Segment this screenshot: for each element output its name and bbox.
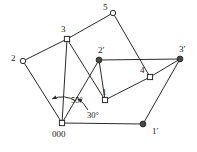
node-label-3: 3: [61, 25, 66, 34]
node-label-1: 1: [102, 88, 107, 97]
edge-n2p-n3p: [99, 59, 180, 60]
diagram-svg: [0, 0, 197, 152]
edge-n2-n3: [23, 39, 67, 61]
node-group: [20, 10, 183, 127]
edge-group: [23, 13, 180, 124]
node-n1: [102, 97, 107, 102]
edge-n4-n3p: [150, 59, 180, 77]
edge-n3-n5: [67, 13, 113, 39]
node-n3p: [177, 56, 183, 62]
edge-n3p-n1p: [143, 59, 180, 124]
node-label-4: 4: [140, 66, 145, 75]
node-n2p: [96, 57, 102, 63]
edge-n000-n1p: [62, 123, 143, 124]
node-label-3-prime: 3′: [179, 45, 185, 54]
node-label-000: 000: [52, 130, 66, 139]
node-label-5: 5: [103, 3, 108, 12]
edge-n2-n000: [23, 61, 62, 123]
node-n3: [64, 36, 69, 41]
node-label-2-prime: 2′: [98, 46, 104, 55]
node-n2: [20, 58, 25, 63]
node-n5: [110, 10, 115, 15]
node-n4: [147, 74, 152, 79]
node-label-1-prime: 1′: [152, 127, 158, 136]
edge-n3-n000: [62, 39, 67, 123]
node-n1p: [140, 121, 146, 127]
diagram-canvas: 5 3 2 2′ 3′ 4 1 000 1′ 55° 30°: [0, 0, 197, 152]
angle-label-30: 30°: [87, 111, 99, 120]
angle-label-55: 55°: [71, 96, 83, 105]
edge-n1-n4: [105, 77, 150, 100]
node-n000: [59, 120, 64, 125]
node-label-2: 2: [11, 54, 16, 63]
